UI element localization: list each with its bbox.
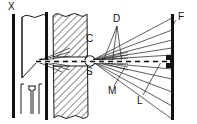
label-l-ray: L (137, 96, 143, 106)
label-d-detector: D (113, 14, 120, 24)
label-s-source: S (86, 67, 93, 77)
filament-fixture (21, 84, 42, 114)
ray-diagram-canvas (0, 0, 197, 124)
collimating-cone (22, 15, 47, 79)
figure-root: X C S D M L F (0, 0, 197, 124)
label-m-marker: M (108, 86, 116, 96)
lower-ray-fan (93, 62, 172, 119)
label-x-source: X (8, 2, 15, 12)
upper-ray-fan (93, 18, 172, 60)
label-c-crystal: C (86, 34, 93, 44)
label-f-film: F (178, 12, 184, 22)
x-ray-tube-wall (12, 14, 15, 118)
leader-line-m (114, 67, 125, 86)
